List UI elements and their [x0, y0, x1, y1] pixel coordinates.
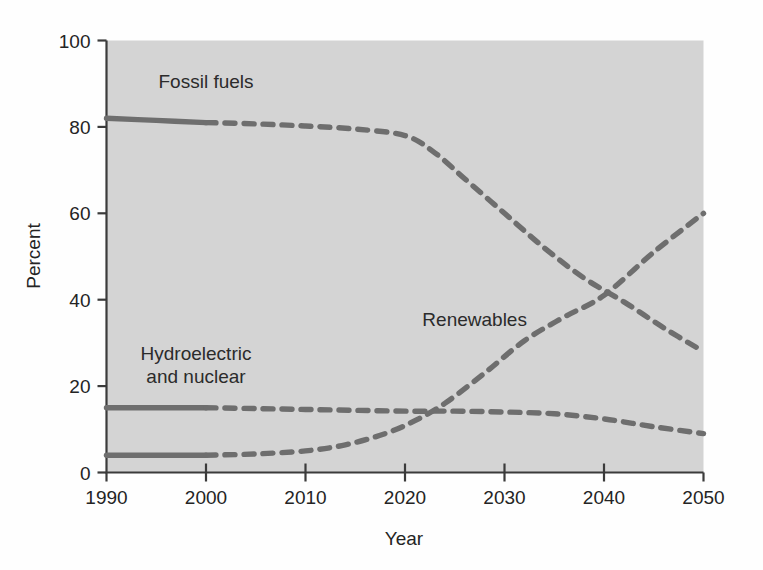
series-label-3: Renewables [422, 309, 527, 330]
x-tick-label-2020: 2020 [384, 487, 426, 508]
x-tick-label-2040: 2040 [583, 487, 625, 508]
x-tick-label-2050: 2050 [682, 487, 724, 508]
y-axis-title: Percent [23, 223, 44, 289]
series-label-1: Fossil fuels [158, 71, 253, 92]
y-tick-label-0: 0 [80, 463, 91, 484]
y-tick-label-40: 40 [69, 290, 90, 311]
x-tick-label-2010: 2010 [284, 487, 326, 508]
x-axis-title: Year [385, 528, 424, 549]
x-tick-label-2030: 2030 [483, 487, 525, 508]
chart-figure: 1990200020102020203020402050 02040608010… [0, 0, 763, 570]
x-tick-label-1990: 1990 [85, 487, 127, 508]
x-tick-label-2000: 2000 [185, 487, 227, 508]
energy-mix-line-chart: 1990200020102020203020402050 02040608010… [0, 0, 763, 570]
y-tick-label-20: 20 [69, 376, 90, 397]
y-tick-label-80: 80 [69, 117, 90, 138]
y-tick-label-100: 100 [59, 31, 91, 52]
y-tick-label-60: 60 [69, 203, 90, 224]
